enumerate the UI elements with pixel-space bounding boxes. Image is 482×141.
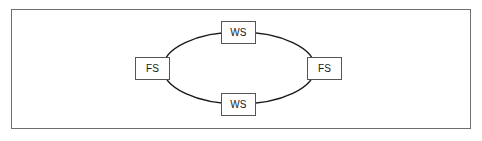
- node-fs-right-label: FS: [318, 64, 331, 74]
- node-ws-bottom-label: WS: [230, 100, 247, 110]
- node-fs-left[interactable]: FS: [135, 57, 170, 80]
- node-fs-right[interactable]: FS: [307, 57, 342, 80]
- node-ws-bottom[interactable]: WS: [221, 93, 256, 116]
- node-ws-top-label: WS: [230, 28, 247, 38]
- figure-root: WS FS FS WS: [0, 0, 482, 141]
- node-ws-top[interactable]: WS: [221, 21, 256, 44]
- node-fs-left-label: FS: [146, 64, 159, 74]
